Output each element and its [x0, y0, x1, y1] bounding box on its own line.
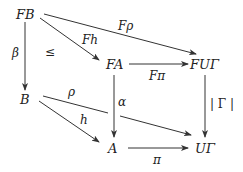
edge-rho-b	[120, 116, 191, 135]
label-Frho: Fρ	[117, 19, 133, 33]
node-B: B	[19, 92, 30, 107]
label-Fpi: Fπ	[148, 69, 166, 83]
leq-annotation: ≤	[45, 45, 55, 59]
node-FUG: FUΓ	[189, 57, 220, 72]
label-Fh: Fh	[81, 33, 98, 47]
label-alpha: α	[118, 95, 126, 109]
edge-h	[39, 101, 99, 142]
label-beta: β	[11, 46, 19, 60]
label-h: h	[80, 113, 88, 127]
node-A: A	[107, 141, 117, 156]
node-UG: UΓ	[195, 141, 216, 156]
label-pi: π	[152, 153, 162, 167]
node-FB: FB	[15, 7, 35, 22]
label-absGamma: | Γ |	[210, 97, 234, 111]
label-rho: ρ	[67, 85, 75, 99]
node-FA: FA	[105, 57, 123, 72]
commutative-diagram: FB FA FUΓ B A UΓ Fρ Fh β Fπ α | Γ | ρ h …	[0, 0, 243, 172]
